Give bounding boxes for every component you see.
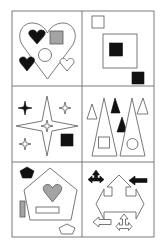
cell-triangles — [87, 98, 148, 156]
cell-stars — [16, 96, 78, 156]
small-pentagon-outline-icon — [59, 224, 75, 234]
small-triangle-outline-icon — [87, 104, 97, 119]
circle-outline-icon — [127, 139, 138, 150]
black-square-icon — [132, 72, 144, 84]
black-pentagon-icon — [20, 167, 34, 178]
small-heart-outline-icon — [60, 59, 74, 72]
small-triangle-outline-icon — [137, 98, 148, 114]
rectangle-outline-icon — [36, 207, 59, 213]
outline-circle-icon — [39, 49, 52, 62]
small-square-outline-icon — [92, 16, 104, 28]
small-star-outline-icon — [59, 102, 71, 114]
outline-left-arrow-icon — [93, 217, 111, 227]
gray-vertical-rectangle-icon — [20, 201, 25, 217]
small-star-outline-icon — [19, 138, 31, 150]
cell-squares — [92, 16, 144, 84]
puzzle-figure — [0, 0, 163, 251]
cell-arrows — [88, 170, 147, 231]
black-square-icon — [61, 134, 73, 146]
cell-hearts — [19, 23, 75, 79]
black-three-way-arrow-icon — [88, 170, 104, 183]
black-left-arrow-icon — [129, 176, 147, 185]
cell-pentagons — [20, 167, 77, 234]
outline-small-three-way-arrow-icon — [116, 214, 132, 231]
black-square-icon — [110, 43, 123, 56]
square-outline-icon — [99, 137, 110, 148]
black-triangle-icon — [111, 98, 120, 113]
black-small-star-icon — [18, 101, 32, 115]
black-heart-icon — [19, 57, 34, 71]
gray-square-icon — [50, 31, 63, 44]
